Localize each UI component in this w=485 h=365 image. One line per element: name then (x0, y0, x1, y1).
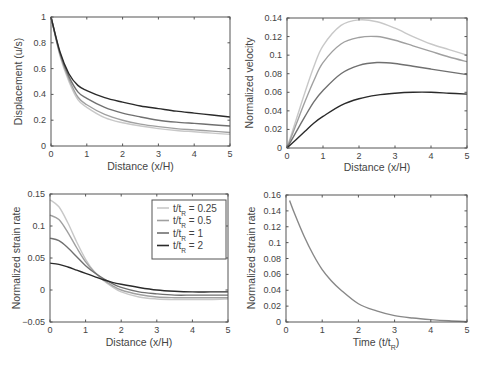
y-tick-label: 0.06 (263, 269, 281, 279)
x-tick-label: 1 (83, 325, 88, 335)
y-axis-label: Normalized strain rate (245, 206, 257, 309)
y-tick-label: 0.06 (264, 87, 282, 97)
x-tick-label: 3 (154, 325, 159, 335)
y-tick-label: 0.4 (33, 89, 46, 99)
axis-ticks: 01234500.020.040.060.080.10.120.14 (264, 13, 469, 161)
plot-lines (287, 20, 467, 148)
x-tick-label: 4 (428, 325, 433, 335)
series-line (51, 17, 230, 126)
y-tick-label: 0.02 (263, 301, 281, 311)
axes-frame (286, 195, 467, 322)
y-tick-label: 0.05 (27, 253, 45, 263)
y-tick-label: 0 (41, 141, 46, 151)
x-tick-label: 0 (48, 149, 53, 159)
axis-ticks: 01234500.20.40.60.81 (33, 12, 232, 159)
axes-frame (287, 18, 467, 148)
plot-lines (51, 17, 230, 134)
y-tick-label: 0.12 (263, 222, 281, 232)
y-tick-label: 0.16 (263, 190, 281, 200)
y-tick-label: 0.12 (264, 32, 282, 42)
y-tick-label: 0.04 (263, 285, 281, 295)
figure: 01234500.20.40.60.81 Distance (x/H) Disp… (0, 0, 485, 365)
x-tick-label: 2 (120, 149, 125, 159)
x-tick-label: 2 (119, 325, 124, 335)
x-axis-label: Distance (x/H) (106, 336, 173, 348)
y-axis-label: Displacement (u/s) (12, 38, 24, 126)
x-tick-label: 4 (428, 151, 433, 161)
x-tick-label: 1 (320, 151, 325, 161)
x-tick-label: 1 (84, 149, 89, 159)
series-line (287, 62, 467, 148)
x-axis-label: Time (t/tR) (353, 336, 400, 351)
y-tick-label: 0.1 (268, 238, 281, 248)
y-tick-label: 0.04 (264, 106, 282, 116)
x-tick-label: 0 (47, 325, 52, 335)
x-tick-label: 2 (356, 325, 361, 335)
y-tick-label: 0.08 (264, 69, 282, 79)
x-tick-label: 3 (156, 149, 161, 159)
y-tick-label: 0.8 (33, 38, 46, 48)
legend: t/tR = 0.25t/tR = 0.5t/tR = 1t/tR = 2 (152, 200, 226, 259)
x-tick-label: 5 (464, 325, 469, 335)
y-tick-label: 0.15 (27, 189, 45, 199)
x-tick-label: 3 (392, 151, 397, 161)
y-tick-label: 0.14 (263, 206, 281, 216)
x-tick-label: 4 (190, 325, 195, 335)
plot-lines (290, 201, 467, 322)
x-tick-label: 3 (392, 325, 397, 335)
series-line (290, 201, 467, 322)
x-tick-label: 4 (192, 149, 197, 159)
x-axis-label: Distance (x/H) (107, 160, 174, 172)
series-line (50, 263, 228, 292)
y-tick-label: 0 (277, 143, 282, 153)
y-axis-label: Normalized strain rate (10, 206, 22, 309)
series-line (51, 17, 230, 132)
series-line (51, 17, 230, 117)
y-tick-label: 0.08 (263, 254, 281, 264)
series-line (287, 20, 467, 148)
x-tick-label: 2 (356, 151, 361, 161)
y-tick-label: 1 (41, 12, 46, 22)
y-tick-label: 0.2 (33, 115, 46, 125)
panel-velocity: 01234500.020.040.060.080.10.120.14 Dista… (243, 13, 470, 173)
y-tick-label: 0 (276, 317, 281, 327)
y-axis-label: Normalized velocity (243, 37, 255, 129)
y-tick-label: 0.6 (33, 64, 46, 74)
x-tick-label: 5 (227, 149, 232, 159)
x-tick-label: 5 (464, 151, 469, 161)
y-tick-label: 0 (40, 285, 45, 295)
panel-strain-rate-distance: 012345−0.0500.050.10.15 t/tR = 0.25t/tR … (10, 189, 231, 348)
y-tick-label: 0.1 (32, 221, 45, 231)
y-tick-label: −0.05 (22, 317, 45, 327)
x-tick-label: 0 (283, 325, 288, 335)
panel-strain-rate-time: 01234500.020.040.060.080.10.120.140.16 T… (245, 190, 470, 351)
x-tick-label: 0 (284, 151, 289, 161)
y-tick-label: 0.02 (264, 124, 282, 134)
x-axis-label: Distance (x/H) (344, 161, 411, 173)
y-tick-label: 0.14 (264, 13, 282, 23)
panel-displacement: 01234500.20.40.60.81 Distance (x/H) Disp… (12, 12, 233, 172)
x-tick-label: 1 (320, 325, 325, 335)
y-tick-label: 0.1 (269, 50, 282, 60)
x-tick-label: 5 (225, 325, 230, 335)
